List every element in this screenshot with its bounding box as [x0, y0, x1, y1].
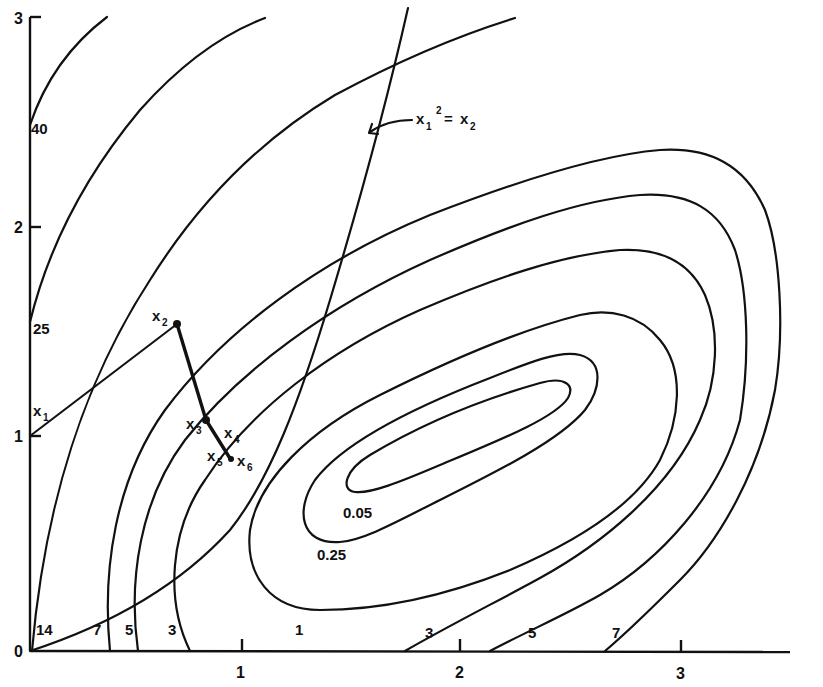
label-7-right: 7 — [612, 624, 620, 641]
contours — [30, 8, 780, 651]
constraint-sub1: 1 — [426, 121, 432, 132]
x-tick-label-2: 2 — [455, 664, 464, 681]
label-14: 14 — [36, 621, 53, 638]
iterate-x6-dot — [228, 456, 234, 462]
y-tick-label-1: 1 — [14, 428, 23, 445]
contour-labels: 0.05 0.25 1 3 5 7 14 25 40 3 5 7 — [31, 120, 620, 641]
iterate-x5-label: x — [207, 447, 216, 464]
x-tick-label-0: 0 — [14, 643, 23, 660]
constraint-x1: x — [416, 110, 425, 127]
contour-25 — [30, 18, 265, 322]
iterate-x1-label: x — [33, 402, 42, 419]
iterate-x5-sub: 5 — [217, 457, 223, 468]
label-40: 40 — [31, 120, 48, 137]
x-tick-label-3: 3 — [676, 665, 685, 682]
label-25: 25 — [33, 320, 50, 337]
annotation-arrow-line — [370, 120, 412, 132]
iterate-x3-label: x — [186, 415, 195, 432]
iterate-x4-label: x — [224, 424, 233, 441]
iterate-x2-label: x — [152, 307, 161, 324]
x-axis — [30, 651, 790, 652]
iterate-x3-dot — [202, 416, 210, 424]
contour-plot: 0 1 2 3 1 2 3 0.05 0.25 1 3 5 7 — [0, 0, 823, 687]
label-3-left: 3 — [168, 621, 176, 638]
contour-7 — [108, 150, 780, 651]
label-3-right: 3 — [425, 624, 433, 641]
iterate-x2-dot — [173, 320, 181, 328]
iterate-x6-sub: 6 — [247, 462, 253, 473]
constraint-parabola — [30, 8, 408, 651]
contour-1 — [249, 312, 677, 610]
label-5-left: 5 — [125, 621, 133, 638]
label-0.05: 0.05 — [343, 504, 372, 521]
label-5-right: 5 — [528, 624, 536, 641]
iterate-x6-label: x — [237, 452, 246, 469]
contour-40 — [30, 17, 107, 125]
y-tick-label-3: 3 — [14, 10, 23, 27]
constraint-sub2: 2 — [470, 121, 476, 132]
constraint-eq: = — [444, 110, 453, 127]
contour-3 — [174, 250, 715, 651]
constraint-sup: 2 — [436, 105, 442, 116]
y-tick-label-2: 2 — [14, 219, 23, 236]
label-1: 1 — [295, 621, 303, 638]
constraint-x2: x — [460, 110, 469, 127]
contour-14 — [32, 18, 515, 651]
contour-0.05 — [347, 381, 571, 493]
label-0.25: 0.25 — [317, 546, 346, 563]
contour-5 — [135, 195, 747, 651]
x-tick-label-1: 1 — [236, 664, 245, 681]
iterate-x1-sub: 1 — [43, 412, 49, 423]
constraint-annotation: x 1 2 = x 2 — [369, 105, 476, 134]
label-7-left: 7 — [93, 621, 101, 638]
axes: 0 1 2 3 1 2 3 — [14, 10, 790, 682]
iterate-x3-sub: 3 — [196, 425, 202, 436]
iterate-x4-sub: 4 — [234, 434, 240, 445]
step-x1-x2 — [30, 324, 177, 436]
iterate-x2-sub: 2 — [162, 317, 168, 328]
step-x2-x3 — [177, 324, 206, 420]
